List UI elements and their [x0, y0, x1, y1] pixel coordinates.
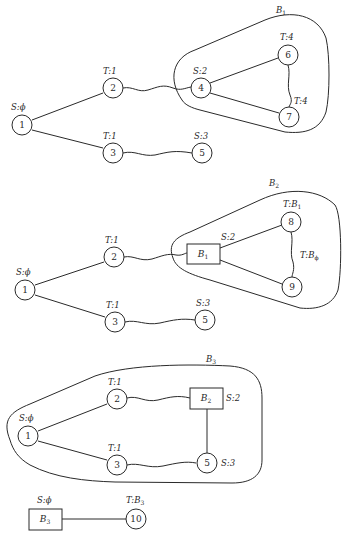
node-3[interactable]: 3 — [103, 143, 123, 163]
edge-4-6 — [210, 58, 278, 83]
node-7[interactable]: 7 — [279, 107, 299, 127]
node-4-label: S:2 — [193, 66, 207, 76]
node-id: 1 — [25, 431, 31, 441]
pseudonode-b2-label: S:2 — [226, 393, 240, 403]
edge-4-7 — [210, 93, 279, 113]
node-9[interactable]: 9 — [282, 277, 302, 297]
node-5[interactable]: 5 — [195, 310, 215, 330]
pseudonode-b1-label: S:2 — [221, 232, 235, 242]
node-id: 1 — [22, 285, 28, 295]
node-1-label: S:ϕ — [19, 413, 34, 423]
node-id: 2 — [110, 83, 116, 93]
panel-4: B3 S:ϕ 10 T:B3 — [29, 495, 146, 530]
node-id: 5 — [199, 148, 205, 158]
node-3[interactable]: 3 — [105, 312, 125, 332]
blossom-b1-label: B1 — [275, 5, 286, 16]
matched-edge-8-9 — [291, 232, 294, 277]
node-id: 3 — [114, 460, 120, 470]
node-id: 2 — [114, 394, 120, 404]
matched-edge-2-b2 — [127, 397, 190, 401]
node-3-label: T:1 — [106, 300, 120, 310]
node-3-label: T:1 — [103, 131, 117, 141]
node-2-label: T:1 — [103, 66, 117, 76]
node-id: 10 — [130, 514, 142, 524]
node-id: 1 — [19, 120, 25, 130]
edge-1-2 — [32, 93, 103, 120]
node-1-label: S:ϕ — [11, 102, 26, 112]
blossom-b2-label: B2 — [268, 178, 279, 189]
pseudonode-b3[interactable]: B3 — [29, 509, 62, 530]
node-5-label: S:3 — [221, 458, 235, 468]
node-2-label: T:1 — [108, 377, 122, 387]
matched-edge-6-7 — [288, 65, 291, 107]
node-id: 5 — [202, 315, 208, 325]
node-id: 3 — [112, 317, 118, 327]
pseudonode-b2[interactable]: B2 — [190, 388, 223, 409]
node-2[interactable]: 2 — [103, 78, 123, 98]
panel-3: B3 1 S:ϕ 2 T:1 3 T:1 B2 S:2 5 S:3 — [7, 354, 262, 483]
edge-8-9-label: T:Bϕ — [300, 250, 319, 262]
matched-edge-2-4 — [123, 86, 191, 91]
matched-edge-3-5 — [125, 319, 195, 324]
node-id: 5 — [204, 458, 210, 468]
blossom-b3-label: B3 — [205, 354, 216, 365]
node-8[interactable]: 8 — [281, 212, 301, 232]
panel-1: B1 1 S:ϕ 2 T:1 3 T:1 4 S:2 — [11, 5, 329, 163]
node-id: 7 — [286, 112, 292, 122]
node-id: 3 — [110, 148, 116, 158]
pseudonode-b1[interactable]: B1 — [187, 244, 220, 264]
node-id: 9 — [289, 282, 295, 292]
node-5-label: S:3 — [196, 298, 210, 308]
node-1[interactable]: 1 — [15, 280, 35, 300]
node-1[interactable]: 1 — [18, 426, 38, 446]
node-6-label: T:4 — [280, 32, 294, 42]
matched-edge-2-b1 — [124, 253, 187, 260]
node-3[interactable]: 3 — [107, 455, 127, 475]
node-id: 8 — [288, 217, 294, 227]
node-5-label: S:3 — [194, 131, 208, 141]
node-id: 6 — [285, 50, 291, 60]
node-4[interactable]: 4 — [191, 78, 211, 98]
node-2-label: T:1 — [105, 235, 119, 245]
node-id: 4 — [198, 83, 204, 93]
node-7-label: T:4 — [294, 96, 308, 106]
pseudonode-b3-label: S:ϕ — [37, 495, 52, 505]
node-1-label: S:ϕ — [16, 267, 31, 277]
matched-edge-3-5 — [127, 462, 196, 467]
edge-1-3 — [38, 441, 107, 460]
node-5[interactable]: 5 — [192, 143, 212, 163]
node-3-label: T:1 — [108, 443, 122, 453]
node-8-label: T:B1 — [283, 199, 301, 210]
edge-b1-9 — [220, 260, 282, 284]
node-10-label: T:B3 — [126, 495, 144, 506]
edge-1-2 — [38, 404, 107, 431]
edge-1-2 — [35, 262, 104, 285]
edge-1-3 — [32, 130, 103, 148]
node-id: 2 — [111, 252, 117, 262]
node-6[interactable]: 6 — [278, 45, 298, 65]
blossom-shrinking-diagram: B1 1 S:ϕ 2 T:1 3 T:1 4 S:2 — [0, 0, 343, 540]
panel-2: B2 1 S:ϕ 2 T:1 3 T:1 B1 S:2 5 — [15, 178, 341, 332]
node-5[interactable]: 5 — [197, 453, 217, 473]
edge-1-3 — [35, 295, 105, 317]
matched-edge-3-5 — [123, 152, 192, 156]
node-1[interactable]: 1 — [12, 115, 32, 135]
node-2[interactable]: 2 — [104, 247, 124, 267]
node-10[interactable]: 10 — [126, 509, 146, 529]
node-2[interactable]: 2 — [107, 389, 127, 409]
